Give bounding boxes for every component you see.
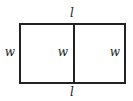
right-width-label: w <box>110 46 120 58</box>
middle-width-label: w <box>58 46 68 58</box>
left-width-label: w <box>5 46 15 58</box>
top-length-label: l <box>70 7 74 19</box>
bottom-length-label: l <box>70 86 74 98</box>
center-divider-line <box>73 25 75 82</box>
